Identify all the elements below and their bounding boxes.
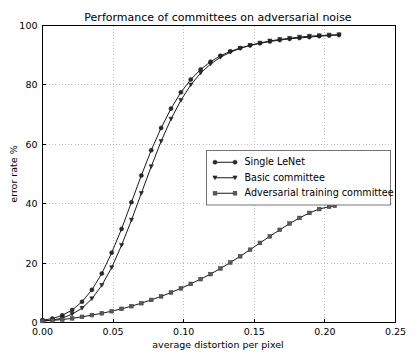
x-axis-label: average distortion per pixel (152, 339, 283, 350)
data-point (278, 228, 282, 232)
legend-marker-circle-icon (233, 160, 237, 164)
data-point (90, 313, 94, 317)
chart-figure: 0.000.050.100.150.200.25 020406080100 Pe… (0, 0, 417, 358)
x-tick-label: 0.05 (103, 326, 124, 337)
y-tick-label: 60 (25, 139, 37, 150)
data-point (179, 90, 183, 94)
data-point (120, 307, 124, 311)
legend-label: Basic committee (245, 172, 325, 183)
chart-title: Performance of committees on adversarial… (84, 11, 352, 24)
data-point (189, 282, 193, 286)
data-point (199, 277, 203, 281)
y-tick-label: 100 (19, 20, 37, 31)
legend-marker-circle-icon (213, 160, 217, 164)
legend-marker-square-icon (233, 191, 237, 195)
data-point (288, 222, 292, 226)
legend-marker-square-icon (213, 191, 217, 195)
data-point (268, 234, 272, 238)
data-point (120, 227, 124, 231)
y-tick-label: 40 (25, 198, 37, 209)
data-point (139, 173, 143, 177)
y-tick-label: 20 (25, 258, 37, 269)
data-point (130, 304, 134, 308)
x-tick-label: 0.25 (385, 326, 406, 337)
data-point (70, 308, 74, 312)
data-point (179, 286, 183, 290)
data-point (149, 148, 153, 152)
data-point (258, 241, 262, 245)
data-point (110, 309, 114, 313)
data-point (298, 216, 302, 220)
data-point (80, 315, 84, 319)
legend-label: Adversarial training committee (245, 187, 394, 198)
data-point (149, 298, 153, 302)
data-point (317, 207, 321, 211)
data-point (189, 78, 193, 82)
data-point (307, 211, 311, 215)
data-point (219, 267, 223, 271)
data-point (51, 319, 55, 323)
x-tick-label: 0.20 (314, 326, 335, 337)
data-point (110, 251, 114, 255)
data-point (139, 301, 143, 305)
data-point (159, 126, 163, 130)
data-point (159, 294, 163, 298)
legend-label: Single LeNet (245, 156, 306, 167)
data-point (100, 311, 104, 315)
x-tick-label: 0.10 (173, 326, 194, 337)
data-point (199, 67, 203, 71)
chart-svg: 0.000.050.100.150.200.25 020406080100 Pe… (0, 0, 417, 358)
data-point (238, 254, 242, 258)
data-point (209, 272, 213, 276)
data-point (90, 288, 94, 292)
data-point (100, 271, 104, 275)
chart-legend[interactable]: Single LeNetBasic committeeAdversarial t… (207, 151, 394, 206)
y-tick-label: 0 (31, 317, 37, 328)
data-point (60, 318, 64, 322)
data-point (248, 248, 252, 252)
data-point (228, 261, 232, 265)
data-point (169, 107, 173, 111)
data-point (129, 200, 133, 204)
data-point (80, 300, 84, 304)
y-axis-label: error rate % (8, 145, 19, 202)
y-tick-label: 80 (25, 79, 37, 90)
data-point (169, 291, 173, 295)
x-tick-label: 0.15 (244, 326, 265, 337)
data-point (70, 316, 74, 320)
data-point (41, 319, 45, 323)
